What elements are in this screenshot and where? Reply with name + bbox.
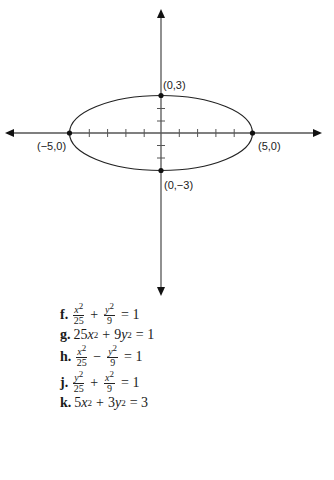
equation-g: g. 25x2 + 9y2 = 1 bbox=[60, 325, 320, 345]
equation-label: f. bbox=[60, 308, 68, 322]
point-0-neg3 bbox=[158, 168, 163, 173]
fraction: x29 bbox=[104, 373, 115, 394]
fraction: x225 bbox=[76, 347, 87, 368]
y-axis-up-arrow-icon bbox=[157, 9, 165, 18]
point-0-3 bbox=[158, 93, 163, 98]
fraction: y29 bbox=[107, 347, 118, 368]
equation-list: f. x225 + y29 = 1 g. 25x2 + 9y2 = 1 h. x… bbox=[60, 305, 320, 413]
fraction: y225 bbox=[73, 373, 84, 394]
label-neg5-0: (−5,0) bbox=[37, 140, 66, 152]
x-axis-left-arrow-icon bbox=[5, 129, 14, 137]
equation-label: h. bbox=[60, 350, 71, 364]
label-0-neg3: (0,−3) bbox=[164, 179, 193, 191]
equation-label: k. bbox=[60, 396, 71, 410]
ellipse-graph: (0,3) (−5,0) (5,0) (0,−3) bbox=[0, 0, 334, 300]
equation-f: f. x225 + y29 = 1 bbox=[60, 305, 320, 325]
equation-k: k. 5x2 + 3y2 = 3 bbox=[60, 393, 320, 413]
equation-label: j. bbox=[60, 376, 68, 390]
y-axis-down-arrow-icon bbox=[157, 287, 165, 296]
fraction: x225 bbox=[73, 305, 84, 326]
label-5-0: (5,0) bbox=[258, 140, 281, 152]
fraction: y29 bbox=[104, 305, 115, 326]
x-axis-right-arrow-icon bbox=[313, 129, 322, 137]
label-0-3: (0,3) bbox=[163, 79, 186, 91]
equation-h: h. x225 − y29 = 1 bbox=[60, 347, 320, 367]
equation-j: j. y225 + x29 = 1 bbox=[60, 373, 320, 393]
point-neg5-0 bbox=[67, 130, 72, 135]
equation-label: g. bbox=[60, 328, 71, 342]
point-5-0 bbox=[250, 130, 255, 135]
